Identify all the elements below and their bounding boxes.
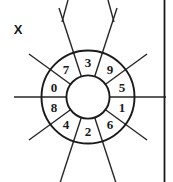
spoke-top-cut-right	[108, 0, 114, 22]
axis-label-x: X	[14, 22, 23, 37]
sector-label-7: 7	[63, 62, 70, 77]
sector-label-3: 3	[85, 55, 92, 70]
sector-label-0: 0	[51, 80, 58, 95]
spoke-top-cut-left	[62, 0, 68, 22]
sector-label-2: 2	[85, 124, 92, 139]
top-cut-spokes	[62, 0, 114, 22]
sector-label-4: 4	[63, 117, 70, 132]
sector-label-6: 6	[107, 117, 114, 132]
wheel-diagram: 3 9 5 1 6 2 4 8 0 7 X	[0, 0, 173, 182]
sector-label-5: 5	[119, 80, 126, 95]
figure-canvas: 3 9 5 1 6 2 4 8 0 7 X	[0, 0, 173, 182]
sector-label-1: 1	[119, 100, 126, 115]
sector-label-9: 9	[107, 62, 114, 77]
sector-label-8: 8	[51, 100, 58, 115]
